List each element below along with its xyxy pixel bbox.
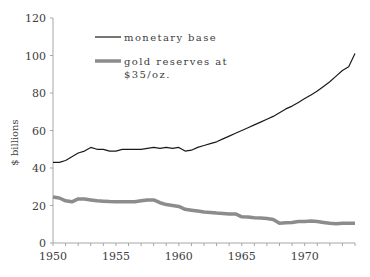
x-tick-label: 1960	[165, 250, 193, 263]
gold-reserves-line	[53, 197, 355, 224]
legend: monetary basegold reserves at$35/oz.	[95, 32, 228, 80]
y-tick-label: 40	[32, 162, 46, 175]
chart: 02040608010012019501955196019651970$ bil…	[0, 0, 370, 277]
y-tick-label: 120	[25, 12, 46, 25]
x-tick-label: 1970	[291, 250, 319, 263]
y-tick-label: 0	[39, 237, 46, 250]
y-tick-label: 60	[32, 125, 46, 138]
y-axis-label: $ billions	[9, 119, 20, 165]
legend-label-monetary-base: monetary base	[124, 32, 217, 43]
x-tick-label: 1950	[39, 250, 67, 263]
y-tick-label: 100	[25, 50, 46, 63]
legend-label-gold-reserves-line2: $35/oz.	[124, 69, 171, 80]
monetary-base-line	[53, 54, 355, 163]
y-tick-label: 20	[32, 200, 46, 213]
legend-label-gold-reserves-line1: gold reserves at	[124, 56, 228, 67]
y-tick-label: 80	[32, 87, 46, 100]
axes: 02040608010012019501955196019651970$ bil…	[9, 12, 355, 263]
x-tick-label: 1965	[228, 250, 256, 263]
series-layer	[53, 54, 355, 224]
x-tick-label: 1955	[102, 250, 130, 263]
